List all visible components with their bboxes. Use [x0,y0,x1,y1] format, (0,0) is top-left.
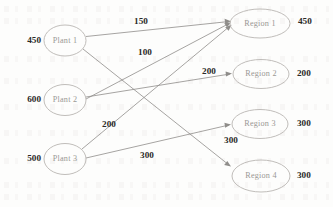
edge-line [82,26,230,149]
edge-line [86,22,229,37]
supply-value-plant2: 600 [27,94,41,104]
edge-line [86,125,229,158]
node-label: Region 2 [245,69,276,78]
node-region3[interactable]: Region 3 [232,110,288,139]
demand-values-group: 450 200 300 300 [297,16,312,180]
node-region1[interactable]: Region 1 [230,9,290,38]
node-plant1[interactable]: Plant 1 [44,25,86,56]
edges-group [82,19,232,167]
edge-line [86,24,229,100]
edge-label-plant2-region2: 200 [202,66,216,76]
node-label: Region 4 [245,171,276,180]
node-region2[interactable]: Region 2 [233,60,289,89]
edge-label-plant3-region1: 200 [102,119,116,129]
edge-label-plant1-region1: 150 [134,16,148,26]
node-plant2[interactable]: Plant 2 [44,85,86,116]
region-nodes-group: Region 1 Region 2 Region 3 Region 4 [230,9,290,192]
demand-value-region2: 200 [297,68,311,78]
node-plant3[interactable]: Plant 3 [44,144,86,175]
node-label: Region 3 [244,119,275,128]
transportation-network-diagram: Plant 1 Plant 2 Plant 3 Region 1 Region … [0,0,333,207]
arrow-head-icon [226,72,232,77]
node-label: Plant 1 [53,36,77,45]
demand-value-region4: 300 [297,170,311,180]
node-label: Plant 3 [53,154,77,163]
demand-value-region3: 300 [297,118,311,128]
edge-label-plant2-region1: 100 [138,47,152,57]
edge-label-plant3-region3: 300 [140,150,154,160]
arrow-head-icon [224,123,231,128]
node-region4[interactable]: Region 4 [232,160,290,192]
edge-label-plant1-region4: 300 [224,135,238,145]
plant-nodes-group: Plant 1 Plant 2 Plant 3 [44,25,86,175]
edge-line [86,74,230,97]
diagram-canvas: Plant 1 Plant 2 Plant 3 Region 1 Region … [0,0,333,207]
edge-plant3-region1 [82,25,232,149]
demand-value-region1: 450 [298,16,312,26]
supply-value-plant3: 500 [27,153,41,163]
supply-value-plant1: 450 [27,35,41,45]
node-label: Plant 2 [53,95,77,104]
node-label: Region 1 [244,19,275,28]
supply-values-group: 450 600 500 [27,35,41,163]
